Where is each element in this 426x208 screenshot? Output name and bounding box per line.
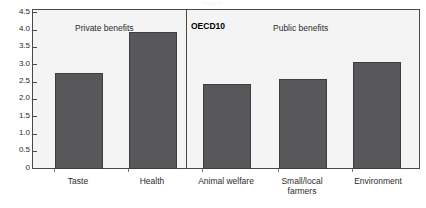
y-tick-mark-2-5 (33, 82, 37, 83)
x-tick-mark-3 (278, 169, 279, 172)
figure-top-caption: Figure (0, 0, 426, 7)
bar-chart-figure: Figure 4.5 4.0 3.5 3.0 2.5 2.0 1.5 1.0 0… (0, 0, 426, 208)
y-tick-mark-4-5 (33, 12, 37, 13)
x-tick-label-taste: Taste (38, 176, 118, 186)
x-tick-mark-1 (128, 169, 129, 172)
y-tick-label-0: 0 (2, 164, 30, 172)
panel-divider (186, 10, 187, 168)
y-tick-mark-1-5 (33, 116, 37, 117)
panel-title-private-benefits: Private benefits (75, 24, 134, 33)
x-tick-label-small-local-farmers: Small/local (262, 176, 342, 186)
panel-title-public-benefits: Public benefits (273, 24, 328, 33)
bar-small-local-farmers[interactable] (279, 79, 327, 169)
y-tick-label-2-0: 2.0 (2, 94, 30, 102)
oecd10-annotation: OECD10 (191, 22, 225, 31)
x-tick-mark-2 (202, 169, 203, 172)
x-tick-label-environment: Environment (336, 176, 420, 186)
y-tick-label-1-5: 1.5 (2, 112, 30, 120)
bar-taste[interactable] (55, 73, 103, 169)
y-tick-label-0-5: 0.5 (2, 146, 30, 154)
plot-area: Private benefits OECD10 Public benefits (32, 9, 420, 169)
y-tick-mark-3-5 (33, 47, 37, 48)
x-tick-label-health: Health (112, 176, 192, 186)
x-tick-mark-0 (54, 169, 55, 172)
y-tick-label-4-0: 4.0 (2, 25, 30, 33)
y-tick-mark-4-0 (33, 30, 37, 31)
x-tick-mark-4 (352, 169, 353, 172)
y-tick-label-3-5: 3.5 (2, 42, 30, 50)
y-tick-mark-2-0 (33, 99, 37, 100)
y-tick-label-1-0: 1.0 (2, 129, 30, 137)
bar-animal-welfare[interactable] (203, 84, 251, 169)
bar-health[interactable] (129, 32, 177, 169)
y-tick-label-2-5: 2.5 (2, 77, 30, 85)
y-tick-label-3-0: 3.0 (2, 60, 30, 68)
x-axis: Taste Health Animal welfare Small/local … (32, 172, 420, 206)
y-tick-mark-0 (33, 168, 37, 169)
y-tick-mark-1-0 (33, 134, 37, 135)
y-tick-label-4-5: 4.5 (2, 8, 30, 16)
y-tick-mark-3-0 (33, 64, 37, 65)
bar-environment[interactable] (353, 62, 401, 169)
x-tick-label-small-local-farmers-line2: farmers (262, 186, 342, 196)
y-tick-mark-0-5 (33, 151, 37, 152)
y-axis: 4.5 4.0 3.5 3.0 2.5 2.0 1.5 1.0 0.5 0 (0, 0, 30, 208)
x-tick-label-animal-welfare: Animal welfare (182, 176, 270, 186)
